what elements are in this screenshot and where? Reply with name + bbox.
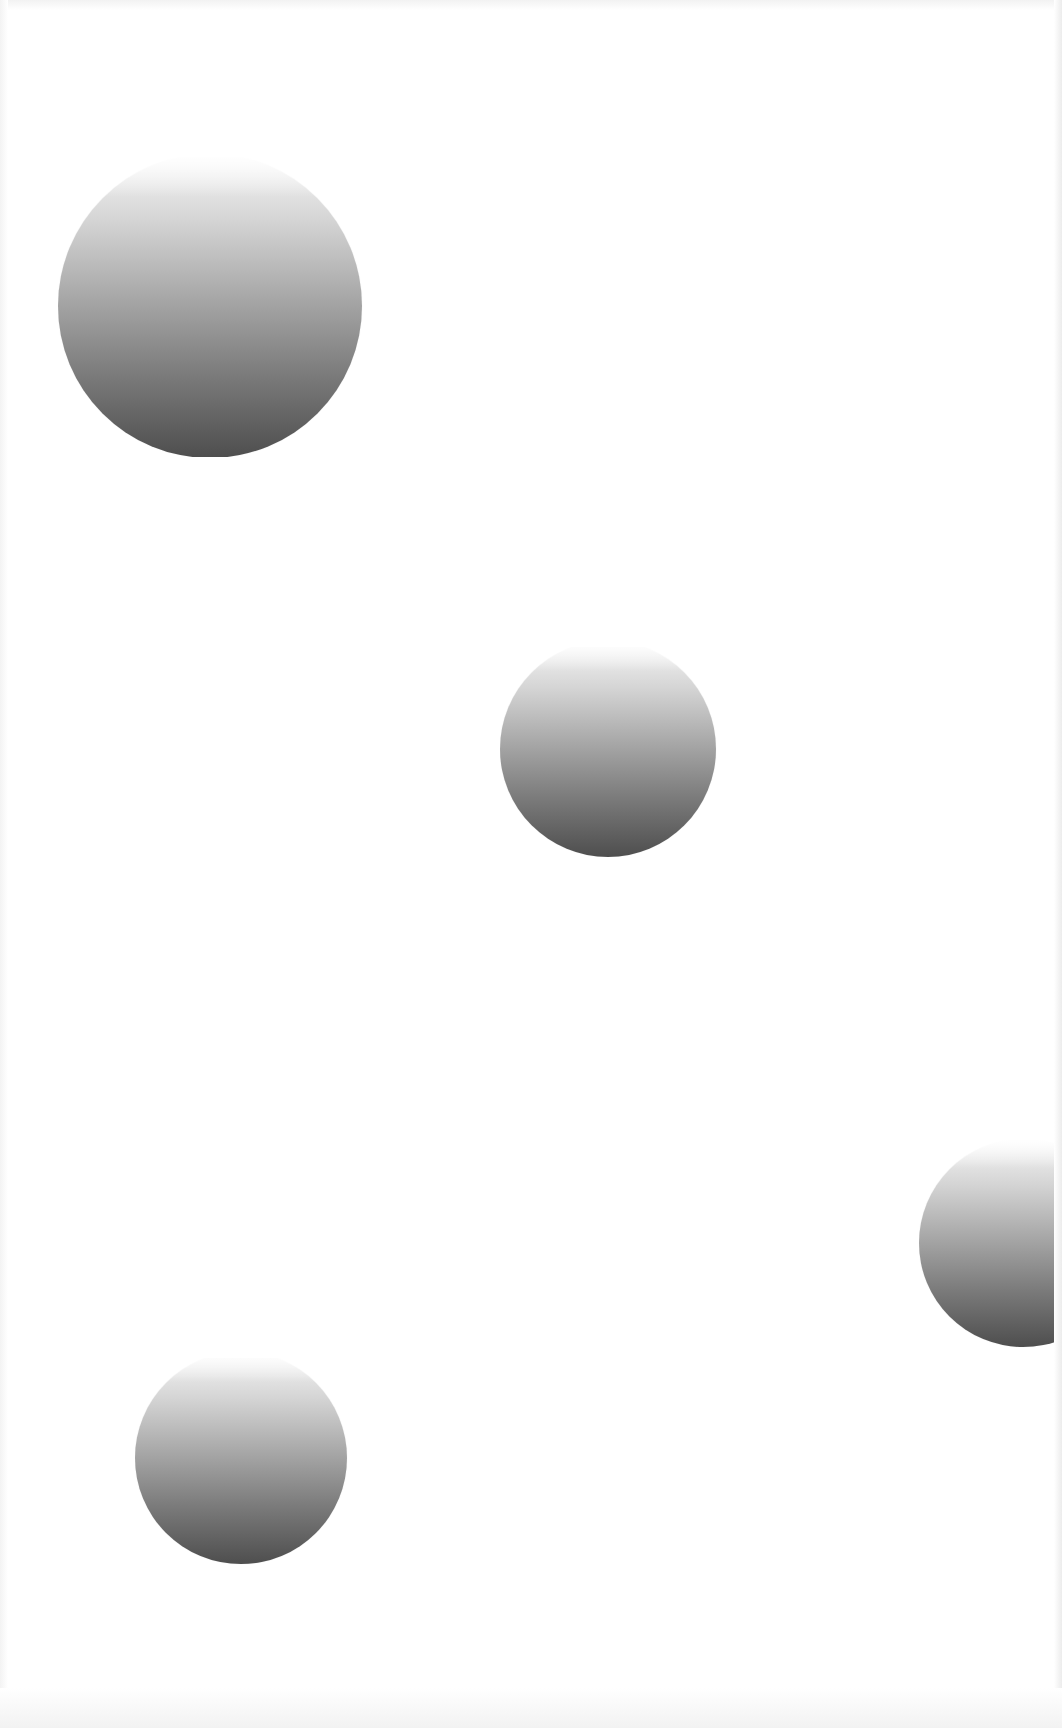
sphere-center (500, 647, 716, 857)
scan-edge-top (0, 0, 1062, 10)
sphere-clip-2 (500, 647, 717, 857)
scan-edge-bottom (0, 1688, 1062, 1728)
scan-edge-left (0, 0, 8, 1728)
sphere-clip-1 (58, 157, 364, 457)
sphere-clip-4 (135, 1358, 348, 1568)
sphere-clip-3 (919, 1140, 1056, 1350)
page-canvas (0, 0, 1062, 1728)
sphere-bottom-left (135, 1358, 347, 1564)
scan-edge-right (1054, 0, 1062, 1728)
sphere-right-edge (919, 1140, 1056, 1347)
sphere-large-top-left (58, 157, 362, 457)
